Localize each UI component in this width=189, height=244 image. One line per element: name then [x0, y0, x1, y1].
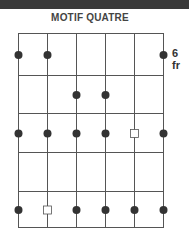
finger-dot	[15, 51, 23, 59]
finger-dot	[160, 206, 168, 214]
finger-dot	[44, 130, 52, 138]
root-square-marker	[131, 130, 139, 138]
finger-dot	[73, 91, 81, 99]
finger-dot	[102, 130, 110, 138]
finger-dot	[15, 206, 23, 214]
finger-dot	[102, 206, 110, 214]
finger-dot	[160, 130, 168, 138]
finger-dot	[73, 130, 81, 138]
fret-position-label: 6 fr	[172, 47, 189, 71]
finger-dot	[73, 206, 81, 214]
finger-dot	[44, 51, 52, 59]
root-square-marker	[44, 206, 52, 214]
finger-dot	[15, 130, 23, 138]
fretboard-diagram	[0, 0, 189, 244]
finger-dot	[160, 51, 168, 59]
finger-dot	[102, 91, 110, 99]
finger-dot	[131, 206, 139, 214]
